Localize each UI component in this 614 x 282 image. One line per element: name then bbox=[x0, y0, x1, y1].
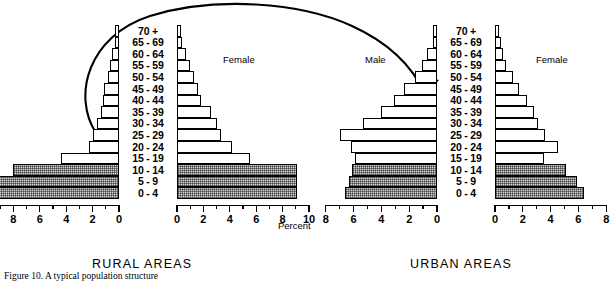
urban-female-bar-25to29 bbox=[495, 129, 545, 141]
urban-female-bar-20to24 bbox=[495, 141, 558, 153]
rural-age-label: 25 - 29 bbox=[119, 129, 177, 141]
rural-age-label: 55 - 59 bbox=[119, 60, 177, 72]
rural-female-label: Female bbox=[223, 55, 255, 65]
rural-age-label: 50 - 54 bbox=[119, 71, 177, 83]
urban-male-bar-65to69 bbox=[433, 37, 437, 49]
rural-right-tick-label: 2 bbox=[189, 214, 217, 225]
urban-right-tick-label: 2 bbox=[509, 214, 537, 225]
urban-right-axis-tick bbox=[592, 205, 593, 209]
rural-right-tick-label: 6 bbox=[242, 214, 270, 225]
urban-right-tick-label: 4 bbox=[537, 214, 565, 225]
urban-right-axis-tick bbox=[536, 205, 537, 209]
urban-left-tick-label: 6 bbox=[340, 214, 368, 225]
rural-left-axis-tick bbox=[0, 205, 1, 209]
rural-female-bar-40to44 bbox=[177, 95, 201, 107]
rural-age-label: 30 - 34 bbox=[119, 118, 177, 130]
urban-female-bar-45to49 bbox=[495, 83, 519, 95]
rural-male-bar-20to24 bbox=[89, 141, 119, 153]
urban-male-bar-30to34 bbox=[363, 118, 437, 130]
urban-area-title: URBAN AREAS bbox=[410, 258, 512, 271]
urban-left-tick-label: 2 bbox=[395, 214, 423, 225]
rural-male-bar-10to14 bbox=[13, 164, 119, 176]
urban-age-label: 45 - 49 bbox=[437, 83, 495, 95]
rural-male-bar-65to69 bbox=[115, 37, 119, 49]
urban-female-bar-30to34 bbox=[495, 118, 538, 130]
rural-right-tick-label: 4 bbox=[216, 214, 244, 225]
percent-axis-label: Percent bbox=[278, 221, 311, 231]
rural-left-axis-tick bbox=[39, 205, 40, 212]
rural-female-bar-15to19 bbox=[177, 153, 250, 165]
rural-right-axis-tick bbox=[203, 205, 204, 212]
rural-left-axis-tick bbox=[26, 205, 27, 209]
rural-area-title: RURAL AREAS bbox=[92, 258, 192, 271]
rural-age-label: 40 - 44 bbox=[119, 95, 177, 107]
rural-left-axis-tick bbox=[92, 205, 93, 212]
rural-age-label: 35 - 39 bbox=[119, 106, 177, 118]
rural-age-label: 0 - 4 bbox=[119, 187, 177, 199]
urban-age-label: 25 - 29 bbox=[437, 129, 495, 141]
urban-female-bar-5to9 bbox=[495, 176, 577, 188]
urban-left-axis-tick bbox=[436, 205, 437, 212]
rural-left-tick-label: 2 bbox=[79, 214, 107, 225]
urban-age-label: 55 - 59 bbox=[437, 60, 495, 72]
urban-female-bar-65to69 bbox=[495, 37, 501, 49]
rural-male-bar-0to4 bbox=[0, 187, 119, 199]
rural-female-bar-70 bbox=[177, 25, 181, 37]
rural-left-tick-label: 8 bbox=[0, 214, 27, 225]
rural-right-axis-tick bbox=[229, 205, 230, 212]
urban-age-label: 50 - 54 bbox=[437, 71, 495, 83]
rural-female-bar-55to59 bbox=[177, 60, 190, 72]
rural-age-label: 45 - 49 bbox=[119, 83, 177, 95]
rural-left-axis-tick bbox=[79, 205, 80, 209]
urban-male-bar-15to19 bbox=[355, 153, 437, 165]
rural-female-bar-10to14 bbox=[177, 164, 297, 176]
urban-right-tick-label: 0 bbox=[481, 214, 509, 225]
urban-male-bar-45to49 bbox=[404, 83, 437, 95]
rural-male-bar-55to59 bbox=[110, 60, 119, 72]
urban-female-bar-0to4 bbox=[495, 187, 584, 199]
urban-left-axis-tick bbox=[325, 205, 326, 212]
rural-left-tick-label: 10 bbox=[0, 214, 1, 225]
urban-right-axis-tick bbox=[550, 205, 551, 212]
urban-left-axis-tick bbox=[367, 205, 368, 209]
rural-female-bar-25to29 bbox=[177, 129, 221, 141]
urban-left-axis-tick bbox=[353, 205, 354, 212]
rural-right-axis-tick bbox=[256, 205, 257, 212]
rural-female-bar-50to54 bbox=[177, 71, 194, 83]
rural-left-tick-label: 4 bbox=[52, 214, 80, 225]
urban-left-axis-tick bbox=[422, 205, 423, 209]
urban-right-tick-label: 8 bbox=[592, 214, 614, 225]
rural-left-axis-tick bbox=[118, 205, 119, 212]
urban-right-axis-tick bbox=[564, 205, 565, 209]
rural-male-bar-50to54 bbox=[108, 71, 119, 83]
urban-male-bar-55to59 bbox=[422, 60, 437, 72]
urban-age-label: 10 - 14 bbox=[437, 164, 495, 176]
rural-female-bar-65to69 bbox=[177, 37, 182, 49]
rural-left-tick-label: 0 bbox=[105, 214, 133, 225]
urban-age-label: 30 - 34 bbox=[437, 118, 495, 130]
rural-female-bar-0to4 bbox=[177, 187, 297, 199]
urban-male-bar-25to29 bbox=[340, 129, 437, 141]
urban-male-bar-40to44 bbox=[394, 95, 437, 107]
rural-male-bar-45to49 bbox=[104, 83, 119, 95]
urban-left-tick-label: 4 bbox=[367, 214, 395, 225]
rural-male-bar-25to29 bbox=[93, 129, 119, 141]
rural-left-axis-tick bbox=[105, 205, 106, 209]
urban-female-bar-70 bbox=[495, 25, 499, 37]
urban-male-bar-70 bbox=[433, 25, 437, 37]
urban-right-axis-tick bbox=[522, 205, 523, 212]
urban-left-axis-tick bbox=[381, 205, 382, 212]
urban-age-label: 65 - 69 bbox=[437, 37, 495, 49]
rural-right-axis-tick bbox=[269, 205, 270, 209]
rural-male-bar-15to19 bbox=[61, 153, 119, 165]
rural-left-axis-tick bbox=[52, 205, 53, 209]
rural-male-bar-30to34 bbox=[97, 118, 119, 130]
rural-right-axis-tick bbox=[190, 205, 191, 209]
urban-left-axis-tick bbox=[409, 205, 410, 212]
urban-male-bar-50to54 bbox=[415, 71, 437, 83]
rural-male-bar-5to9 bbox=[0, 176, 119, 188]
rural-left-axis-tick bbox=[66, 205, 67, 212]
rural-female-bar-20to24 bbox=[177, 141, 232, 153]
urban-left-axis-tick bbox=[339, 205, 340, 209]
